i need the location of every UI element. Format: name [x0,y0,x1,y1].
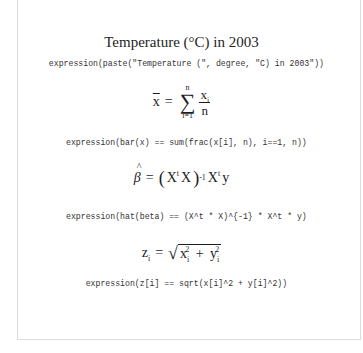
z-lhs: zi [142,245,150,261]
title-text: Temperature (°C) in 2003 [104,34,258,50]
fraction-denominator: n [202,103,209,117]
summation: n ∑ i=1 [180,84,196,120]
plot-title: Temperature (°C) in 2003 [0,34,363,50]
euclidean-norm-code: expression(z[i] == sqrt(x[i]^2 + y[i]^2)… [0,269,363,289]
title-code: expression(paste("Temperature (", degree… [0,49,363,69]
sum-lower-limit: i=1 [182,112,193,120]
equals-sign: = [155,245,163,261]
formula-euclidean-norm: zi = √ xi2 + yi2 [0,243,363,262]
square-root: √ xi2 + yi2 [168,244,221,262]
ols-estimator-code-text: expression(hat(beta) == (X^t * X)^{-1} *… [66,212,307,221]
open-paren: ( [159,169,165,187]
ols-estimator-code: expression(hat(beta) == (X^t * X)^{-1} *… [0,202,363,222]
title-code-text: expression(paste("Temperature (", degree… [49,59,324,68]
sigma-symbol: ∑ [180,92,196,112]
beta-hat: β [134,170,141,186]
equals-sign: = [146,170,154,186]
equals-sign: = [165,94,173,110]
fraction: xi n [199,88,210,117]
term-xt: Xt [167,170,179,186]
formula-sample-mean: x = n ∑ i=1 xi n [0,84,363,120]
term-x: X [181,170,191,186]
fraction-numerator: xi [199,88,210,103]
sample-mean-code: expression(bar(x) == sum(frac(x[i], n), … [0,128,363,148]
radical-icon: √ [168,244,178,262]
term-xt-2: Xt [208,170,220,186]
sample-mean-code-text: expression(bar(x) == sum(frac(x[i], n), … [66,138,307,147]
term-y: y [222,170,229,186]
formula-ols-estimator: β = ( Xt X ) -1 Xt y [0,168,363,187]
radicand: xi2 + yi2 [178,244,221,262]
euclidean-norm-code-text: expression(z[i] == sqrt(x[i]^2 + y[i]^2)… [86,279,287,288]
xbar-lhs: x [153,94,160,110]
